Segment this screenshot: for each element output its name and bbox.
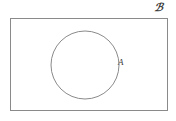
set-a-label: A <box>118 58 124 67</box>
venn-diagram-canvas <box>0 0 176 121</box>
universal-set-label: ℬ <box>153 2 163 13</box>
set-a-circle <box>51 31 119 99</box>
venn-diagram-figure: ℬ A <box>0 0 176 121</box>
universal-set-rectangle <box>11 19 168 111</box>
